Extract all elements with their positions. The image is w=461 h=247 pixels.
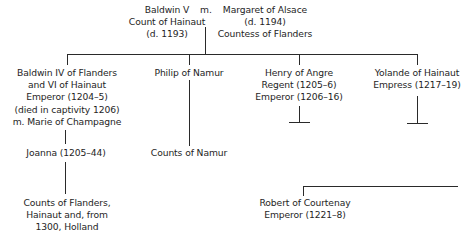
title-line: Emperor (1221–8) — [259, 209, 350, 221]
title-line: Emperor (1204–5) — [13, 91, 122, 103]
joanna-to-counts-line — [65, 162, 66, 194]
title-line: Empress (1217–19) — [373, 79, 460, 91]
title-line: Regent (1205–6) — [255, 79, 342, 91]
dates-line: (d. 1194) — [218, 16, 313, 28]
label-line: Counts of Namur — [151, 147, 227, 159]
marriage-stem-line — [205, 27, 206, 54]
title-line: Emperor (1206–16) — [255, 91, 342, 103]
name-line: Philip of Namur — [154, 67, 223, 79]
name-line: Baldwin V — [129, 4, 205, 16]
person-yolande-of-hainaut: Yolande of Hainaut Empress (1217–19) — [373, 67, 460, 91]
counts-of-flanders-label: Counts of Flanders, Hainaut and, from 13… — [23, 197, 110, 234]
yolande-terminal-bar — [407, 123, 428, 124]
dates-line: (d. 1193) — [129, 28, 205, 40]
drop-line-baldwin-iv — [67, 54, 68, 65]
title-line: Countess of Flanders — [218, 28, 313, 40]
henry-terminal-bar — [289, 122, 310, 123]
yolande-terminal-stem — [417, 96, 418, 123]
drop-line-philip — [189, 54, 190, 65]
drop-line-yolande — [417, 54, 418, 65]
label-line: Hainaut and, from — [23, 209, 110, 221]
title-line: Count of Hainaut — [129, 16, 205, 28]
henry-terminal-stem — [299, 106, 300, 122]
person-margaret-of-alsace: Margaret of Alsace (d. 1194) Countess of… — [218, 4, 313, 41]
person-baldwin-iv: Baldwin IV of Flanders and VI of Hainaut… — [13, 67, 122, 128]
name-line: Margaret of Alsace — [218, 4, 313, 16]
name-line: and VI of Hainaut — [13, 79, 122, 91]
person-philip-of-namur: Philip of Namur — [154, 67, 223, 79]
person-joanna: Joanna (1205–44) — [26, 147, 105, 159]
name-line: Henry of Angre — [255, 67, 342, 79]
name-line: Robert of Courtenay — [259, 197, 350, 209]
robert-bar-line — [303, 186, 458, 187]
name-line: Yolande of Hainaut — [373, 67, 460, 79]
marriage-label: m. — [200, 4, 212, 16]
robert-drop-line — [303, 186, 304, 196]
spouse-line: m. Marie of Champagne — [13, 116, 122, 128]
person-robert-of-courtenay: Robert of Courtenay Emperor (1221–8) — [259, 197, 350, 221]
counts-of-namur-label: Counts of Namur — [151, 147, 227, 159]
philip-to-namur-line — [189, 80, 190, 146]
sibling-bar-line — [67, 54, 418, 55]
label-line: 1300, Holland — [23, 221, 110, 233]
label-line: Counts of Flanders, — [23, 197, 110, 209]
note-line: (died in captivity 1206) — [13, 104, 122, 116]
baldwin-to-joanna-line — [65, 130, 66, 144]
drop-line-henry — [299, 54, 300, 65]
name-line: Baldwin IV of Flanders — [13, 67, 122, 79]
name-line: Joanna (1205–44) — [26, 147, 105, 159]
person-baldwin-v: Baldwin V Count of Hainaut (d. 1193) — [129, 4, 205, 41]
person-henry-of-angre: Henry of Angre Regent (1205–6) Emperor (… — [255, 67, 342, 104]
